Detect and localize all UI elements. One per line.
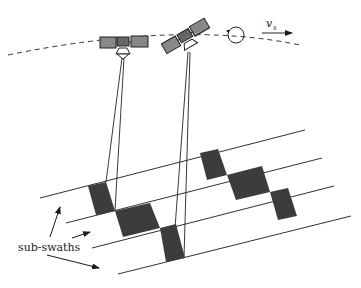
velocity-label: v — [266, 17, 273, 30]
swath-lines — [40, 130, 351, 274]
diagram-canvas: v s sub-swaths — [0, 0, 361, 288]
rotation-indicator-icon — [227, 27, 244, 43]
subswath-arrow-icon — [72, 232, 90, 238]
velocity-subscript: s — [273, 24, 277, 32]
beam-line — [184, 52, 190, 257]
subswath-arrow-icon — [50, 207, 60, 237]
subswaths-label: sub-swaths — [18, 241, 81, 254]
illuminated-patches — [88, 149, 297, 262]
satellite-1-icon — [100, 36, 148, 59]
subswath-arrow-icon — [47, 255, 99, 268]
orbit-track — [8, 35, 300, 55]
diagram-svg: v s sub-swaths — [0, 0, 361, 288]
beam-line — [106, 58, 122, 182]
satellite-2-icon — [161, 18, 213, 59]
